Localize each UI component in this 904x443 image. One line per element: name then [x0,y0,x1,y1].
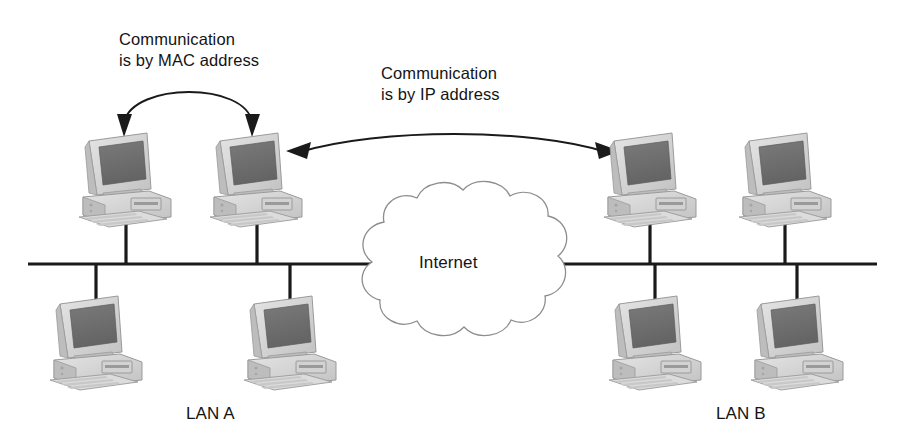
computer-lan-b-host-2 [735,127,835,231]
internet-cloud-label: Internet [419,252,477,273]
lan-b-label: LAN B [716,403,766,424]
ip-arrow-arc [300,134,606,152]
ip-address-label: Communication is by IP address [381,63,500,105]
computer-lan-b-host-4 [747,290,847,394]
computer-lan-a-host-2 [206,127,306,231]
computer-lan-b-host-3 [605,290,705,394]
lan-a-label: LAN A [186,403,235,424]
computer-lan-a-host-3 [46,290,146,394]
mac-arrow-arc [124,92,252,122]
mac-address-label: Communication is by MAC address [119,29,259,71]
network-diagram: Communication is by MAC address Communic… [0,0,904,443]
computer-lan-a-host-1 [75,127,175,231]
computer-lan-b-host-1 [600,127,700,231]
computer-lan-a-host-4 [240,290,340,394]
